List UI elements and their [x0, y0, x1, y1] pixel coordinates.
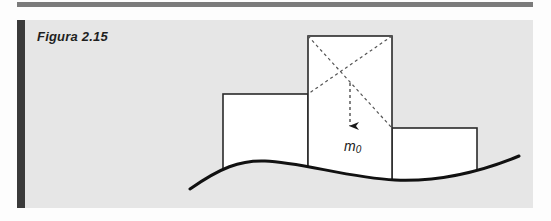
- diagram-canvas: m0: [0, 0, 551, 221]
- center-block: [308, 36, 392, 186]
- figure-page: Figura 2.15 m0: [0, 0, 551, 221]
